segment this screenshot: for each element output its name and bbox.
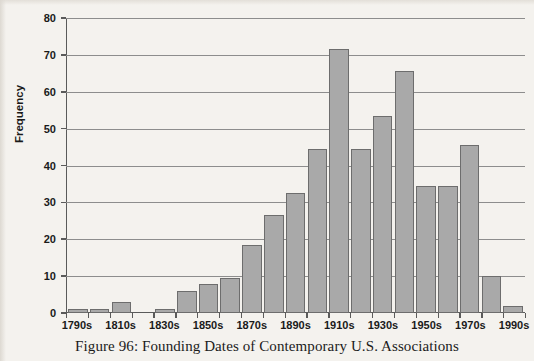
bar xyxy=(308,149,328,313)
bar-slot xyxy=(176,18,198,313)
x-axis-tick-label: 1990s xyxy=(499,319,530,331)
bar xyxy=(220,278,240,313)
plot-area xyxy=(66,18,525,313)
x-axis-tick-mark xyxy=(88,313,89,318)
y-axis-tick-label: 40 xyxy=(12,160,56,172)
x-axis-tick-mark xyxy=(263,313,264,318)
bar-slot xyxy=(306,18,328,313)
bar-slot xyxy=(67,18,89,313)
bar xyxy=(199,284,219,314)
scan-edge-top xyxy=(0,0,534,5)
y-axis-tick-labels: 01020304050607080 xyxy=(0,0,66,361)
bar-slot xyxy=(350,18,372,313)
x-axis-tick-mark xyxy=(153,313,154,318)
bar-slot xyxy=(241,18,263,313)
x-axis-tick-mark xyxy=(328,313,329,318)
bar-slot xyxy=(285,18,307,313)
x-axis-tick-mark xyxy=(110,313,111,318)
x-axis-tick-label: 1790s xyxy=(62,319,93,331)
bar xyxy=(351,149,371,313)
x-axis-tick-mark xyxy=(438,313,439,318)
bar-slot xyxy=(154,18,176,313)
y-axis-tick-label: 60 xyxy=(12,86,56,98)
bar-slot xyxy=(372,18,394,313)
bar-series xyxy=(66,18,525,313)
x-axis-tick-mark xyxy=(175,313,176,318)
x-axis-tick-mark xyxy=(306,313,307,318)
bar xyxy=(112,302,132,313)
y-axis-tick-label: 50 xyxy=(12,123,56,135)
bar-slot xyxy=(459,18,481,313)
y-axis-tick-label: 70 xyxy=(12,49,56,61)
x-axis-tick-mark xyxy=(525,313,526,318)
x-axis-tick-mark xyxy=(372,313,373,318)
x-axis-tick-mark xyxy=(197,313,198,318)
x-axis-tick-mark xyxy=(394,313,395,318)
x-axis-tick-label: 1970s xyxy=(455,319,486,331)
x-axis-tick-mark xyxy=(416,313,417,318)
x-axis-tick-mark xyxy=(481,313,482,318)
x-axis-tick-label: 1930s xyxy=(368,319,399,331)
x-axis-tick-mark xyxy=(503,313,504,318)
figure-caption: Figure 96: Founding Dates of Contemporar… xyxy=(0,338,534,355)
bar xyxy=(416,186,436,313)
y-axis-tick-label: 30 xyxy=(12,196,56,208)
bar-slot xyxy=(502,18,524,313)
x-axis-tick-mark xyxy=(66,313,67,318)
x-axis-tick-label: 1910s xyxy=(324,319,355,331)
bar-slot xyxy=(393,18,415,313)
x-axis-tick-mark xyxy=(219,313,220,318)
x-axis-tick-label: 1850s xyxy=(193,319,224,331)
x-axis-tick-label: 1950s xyxy=(411,319,442,331)
y-axis-tick-label: 0 xyxy=(12,307,56,319)
bar-slot xyxy=(415,18,437,313)
bar xyxy=(329,49,349,313)
bar xyxy=(438,186,458,313)
x-axis-tick-mark xyxy=(350,313,351,318)
bar-slot xyxy=(89,18,111,313)
bar-slot xyxy=(111,18,133,313)
bar-slot xyxy=(219,18,241,313)
bar-slot xyxy=(198,18,220,313)
x-axis-tick-label: 1890s xyxy=(280,319,311,331)
bar xyxy=(177,291,197,313)
bar-slot xyxy=(481,18,503,313)
y-axis-tick-label: 10 xyxy=(12,270,56,282)
bar xyxy=(286,193,306,313)
bar-slot xyxy=(328,18,350,313)
y-axis-tick-label: 80 xyxy=(12,12,56,24)
x-axis-tick-label: 1870s xyxy=(236,319,267,331)
x-axis-tick-labels: 1790s1810s1830s1850s1870s1890s1910s1930s… xyxy=(66,319,525,335)
bar xyxy=(503,306,523,313)
x-axis-tick-mark xyxy=(459,313,460,318)
bar xyxy=(264,215,284,313)
bar-slot xyxy=(437,18,459,313)
bar-slot xyxy=(263,18,285,313)
bar xyxy=(460,145,480,313)
figure-container: Frequency 01020304050607080 1790s1810s18… xyxy=(0,0,534,361)
x-axis-tick-label: 1830s xyxy=(149,319,180,331)
bar xyxy=(482,276,502,313)
bar xyxy=(395,71,415,313)
x-axis-tick-label: 1810s xyxy=(105,319,136,331)
x-axis-tick-mark xyxy=(241,313,242,318)
y-axis-tick-label: 20 xyxy=(12,233,56,245)
x-axis-tick-mark xyxy=(285,313,286,318)
bar-slot xyxy=(132,18,154,313)
bar xyxy=(373,116,393,313)
x-axis-tick-mark xyxy=(132,313,133,318)
bar xyxy=(242,245,262,313)
